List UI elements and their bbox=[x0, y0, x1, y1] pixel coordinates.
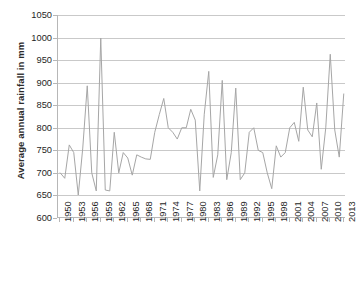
x-axis-tick-label: 2013 bbox=[347, 201, 357, 222]
x-axis-tick-label: 1986 bbox=[225, 201, 235, 222]
x-axis-tick-mark bbox=[221, 218, 222, 222]
x-axis-tick-label: 1974 bbox=[171, 201, 181, 222]
x-axis-tick-label: 2007 bbox=[320, 201, 330, 222]
x-axis-tick-mark bbox=[275, 218, 276, 222]
x-axis-tick-label: 2001 bbox=[293, 201, 303, 222]
x-axis-tick-mark bbox=[167, 218, 168, 222]
x-axis-tick-mark bbox=[262, 218, 263, 222]
x-axis-tick-label: 1977 bbox=[185, 201, 195, 222]
x-axis-tick-mark bbox=[343, 218, 344, 222]
x-axis-tick-mark bbox=[316, 218, 317, 222]
x-axis-tick-mark bbox=[289, 218, 290, 222]
x-axis-tick-label: 1998 bbox=[279, 201, 289, 222]
x-axis-tick-label: 2004 bbox=[306, 201, 316, 222]
x-axis-tick-mark bbox=[181, 218, 182, 222]
x-axis-tick-mark bbox=[113, 218, 114, 222]
x-axis-tick-mark bbox=[235, 218, 236, 222]
x-axis-tick-mark bbox=[59, 218, 60, 222]
x-axis-tick-label: 1950 bbox=[63, 201, 73, 222]
x-axis-tick-mark bbox=[208, 218, 209, 222]
x-axis-tick-label: 1989 bbox=[239, 201, 249, 222]
x-axis-tick-label: 1968 bbox=[144, 201, 154, 222]
x-axis-tick-label: 1965 bbox=[131, 201, 141, 222]
x-axis-tick-mark bbox=[154, 218, 155, 222]
x-axis-tick-label: 1971 bbox=[158, 201, 168, 222]
x-axis-tick-mark bbox=[302, 218, 303, 222]
x-axis-tick-label: 2010 bbox=[333, 201, 343, 222]
x-axis-tick-mark bbox=[86, 218, 87, 222]
x-axis-tick-mark bbox=[194, 218, 195, 222]
x-axis-tick-mark bbox=[329, 218, 330, 222]
x-axis-tick-label: 1980 bbox=[198, 201, 208, 222]
x-axis-tick-label: 1956 bbox=[90, 201, 100, 222]
x-axis-tick-label: 1959 bbox=[104, 201, 114, 222]
x-axis-tick-mark bbox=[100, 218, 101, 222]
x-axis-tick-label: 1995 bbox=[266, 201, 276, 222]
x-axis-tick-label: 1953 bbox=[77, 201, 87, 222]
x-axis-tick-label: 1962 bbox=[117, 201, 127, 222]
x-axis-tick-label: 1983 bbox=[212, 201, 222, 222]
x-axis-tick-mark bbox=[140, 218, 141, 222]
x-axis-tick-mark bbox=[248, 218, 249, 222]
x-axis-tick-label: 1992 bbox=[252, 201, 262, 222]
x-axis-tick-mark bbox=[73, 218, 74, 222]
x-axis-tick-mark bbox=[127, 218, 128, 222]
